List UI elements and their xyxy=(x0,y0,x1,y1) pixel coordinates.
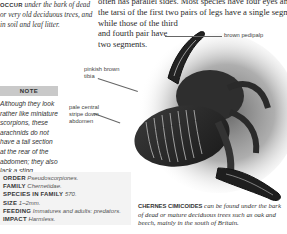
label-brown-pedipalp: brown pedipalp xyxy=(224,32,263,39)
label-tibia-line2: tibia xyxy=(84,73,119,80)
label-tibia-line1: pinkish brown xyxy=(84,66,119,73)
body-line: the tarsi of the first two pairs of legs… xyxy=(98,7,287,18)
note-body: Although they look rather like miniature… xyxy=(0,96,58,176)
label-stripe-line3: abdomen xyxy=(69,118,99,125)
facts-box: ORDER Pseudoscorpiones. FAMILY Chernetid… xyxy=(0,172,131,225)
fact-row-impact: IMPACT Harmless. xyxy=(3,215,131,223)
species-caption: CHERNES CIMICOIDES can be found under th… xyxy=(138,202,287,228)
fact-key: FAMILY xyxy=(3,183,26,189)
body-line: often has parallel sides. Most species h… xyxy=(98,0,287,7)
fact-row-order: ORDER Pseudoscorpiones. xyxy=(3,174,131,182)
fact-key: IMPACT xyxy=(3,216,27,222)
label-pale-stripe: pale central stripe down abdomen xyxy=(69,104,99,125)
pedipalp-leader-line xyxy=(165,36,222,37)
fact-value: 1–2mm. xyxy=(19,200,41,206)
caption-species-name: CHERNES CIMICOIDES xyxy=(138,203,202,209)
fact-row-family: FAMILY Chernetidae. xyxy=(3,182,131,190)
fact-key: ORDER xyxy=(3,175,26,181)
fact-row-feeding: FEEDING Immatures and adults: predators. xyxy=(3,207,131,215)
note-header: NOTE xyxy=(0,86,58,96)
fact-key: SPECIES IN FAMILY xyxy=(3,191,63,197)
fact-key: FEEDING xyxy=(3,208,31,214)
occurrence-text: OCCUR under the bark of dead or very old… xyxy=(0,0,98,30)
fact-row-species: SPECIES IN FAMILY 570. xyxy=(3,190,131,198)
fact-value: Immatures and adults: predators. xyxy=(33,208,121,214)
fact-value: Chernetidae. xyxy=(27,183,61,189)
pseudoscorpion-illustration xyxy=(118,18,287,204)
label-tibia: pinkish brown tibia xyxy=(84,66,119,80)
fact-row-size: SIZE 1–2mm. xyxy=(3,199,131,207)
fact-value: Pseudoscorpiones. xyxy=(27,175,78,181)
fact-value: Harmless. xyxy=(28,216,55,222)
label-stripe-line2: stripe down xyxy=(69,111,99,118)
note-box: NOTE Although they look rather like mini… xyxy=(0,86,58,176)
fact-key: SIZE xyxy=(3,200,17,206)
label-stripe-line1: pale central xyxy=(69,104,99,111)
fact-value: 570. xyxy=(65,191,77,197)
occurrence-lead: OCCUR xyxy=(0,2,23,8)
